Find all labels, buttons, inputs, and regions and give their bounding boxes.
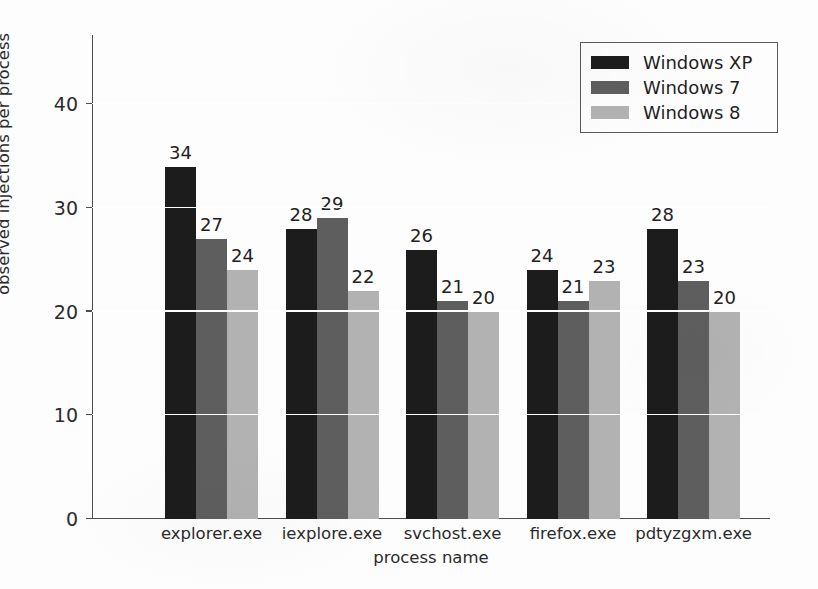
y-tick-label: 30	[54, 197, 78, 219]
legend-label: Windows 7	[643, 77, 741, 98]
bar: 21	[558, 301, 589, 519]
bar: 24	[227, 270, 258, 519]
legend-swatch	[591, 56, 629, 69]
y-axis-title: observed injections per process	[0, 33, 13, 295]
bar-chart-figure: 010203040 342724282922262120242123282320…	[0, 0, 818, 589]
x-tick-label: svchost.exe	[404, 524, 502, 543]
bar-value-label: 21	[562, 276, 585, 297]
legend-item: Windows 7	[591, 75, 767, 100]
bar-value-label: 29	[321, 193, 344, 214]
bar: 27	[196, 239, 227, 519]
bar: 28	[647, 229, 678, 519]
bar: 26	[406, 250, 437, 519]
legend-swatch	[591, 106, 629, 119]
bar: 20	[709, 312, 740, 519]
bar: 21	[437, 301, 468, 519]
legend-item: Windows 8	[591, 100, 767, 125]
bar: 34	[165, 167, 196, 519]
bar-value-label: 20	[713, 287, 736, 308]
legend-label: Windows XP	[643, 52, 752, 73]
bar-value-label: 26	[410, 225, 433, 246]
legend-swatch	[591, 81, 629, 94]
y-tick-label: 40	[54, 93, 78, 115]
bar-value-label: 27	[200, 214, 223, 235]
bar-value-label: 24	[531, 245, 554, 266]
bar: 23	[589, 281, 620, 519]
bar-value-label: 28	[290, 204, 313, 225]
x-tick-label: iexplore.exe	[282, 524, 382, 543]
bar-value-label: 22	[352, 266, 375, 287]
legend: Windows XPWindows 7Windows 8	[580, 42, 778, 133]
y-tick-label: 10	[54, 404, 78, 426]
bar: 22	[348, 291, 379, 519]
bar: 28	[286, 229, 317, 519]
legend-item: Windows XP	[591, 50, 767, 75]
bar-value-label: 28	[651, 204, 674, 225]
x-axis-title: process name	[92, 548, 770, 567]
bar-value-label: 21	[441, 276, 464, 297]
bar-value-label: 20	[472, 287, 495, 308]
bar-value-label: 23	[593, 256, 616, 277]
y-tick-label: 20	[54, 301, 78, 323]
x-tick-label: explorer.exe	[161, 524, 262, 543]
x-tick-label: firefox.exe	[530, 524, 617, 543]
y-tick-label: 0	[66, 508, 78, 530]
bar-value-label: 23	[682, 256, 705, 277]
x-tick-label: pdtyzgxm.exe	[635, 524, 752, 543]
legend-label: Windows 8	[643, 102, 741, 123]
bar-value-label: 24	[231, 245, 254, 266]
bar-value-label: 34	[169, 142, 192, 163]
bar: 23	[678, 281, 709, 519]
bar: 29	[317, 218, 348, 519]
bar: 24	[527, 270, 558, 519]
bar: 20	[468, 312, 499, 519]
